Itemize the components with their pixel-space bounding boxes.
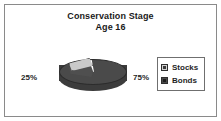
chart-legend: Stocks Bonds (157, 57, 205, 91)
pie-chart (57, 55, 131, 97)
plot-area: 25% 75% Stocks Bonds (5, 39, 218, 116)
dark-square-icon (161, 77, 168, 84)
chart-screenshot: Conservation Stage Age 16 25% 75% Stocks (0, 0, 221, 121)
data-label-bonds: 75% (133, 73, 149, 82)
pie-slice-bonds (59, 59, 127, 85)
legend-item-bonds: Bonds (161, 74, 201, 87)
chart-title-block: Conservation Stage Age 16 (5, 11, 216, 33)
data-label-stocks: 25% (21, 73, 37, 82)
legend-item-stocks: Stocks (161, 61, 201, 74)
legend-label-stocks: Stocks (172, 63, 198, 72)
chart-subtitle: Age 16 (5, 22, 216, 33)
legend-label-bonds: Bonds (172, 76, 197, 85)
light-square-icon (161, 64, 168, 71)
chart-frame: Conservation Stage Age 16 25% 75% Stocks (4, 4, 217, 117)
page-title: Conservation Stage (5, 11, 216, 22)
